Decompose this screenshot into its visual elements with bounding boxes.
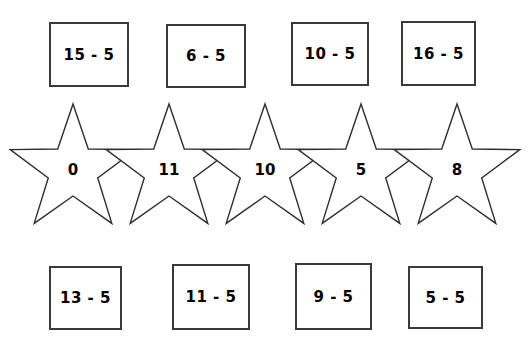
star-value: 5 xyxy=(356,161,366,179)
expression-card[interactable]: 9 - 5 xyxy=(295,263,372,330)
expression-label: 6 - 5 xyxy=(186,47,226,65)
star-value: 8 xyxy=(452,161,462,179)
star-answer-row: 0 11 10 5 8 xyxy=(0,98,527,232)
star-value: 0 xyxy=(68,161,78,179)
expression-card[interactable]: 11 - 5 xyxy=(172,264,250,330)
expression-card[interactable]: 15 - 5 xyxy=(49,22,129,87)
expression-label: 10 - 5 xyxy=(305,45,356,63)
expression-label: 15 - 5 xyxy=(64,46,115,64)
expression-label: 13 - 5 xyxy=(60,289,111,307)
expression-card[interactable]: 10 - 5 xyxy=(291,22,369,86)
expression-label: 9 - 5 xyxy=(313,288,353,306)
expression-label: 5 - 5 xyxy=(425,289,465,307)
expression-card[interactable]: 13 - 5 xyxy=(49,266,122,330)
expression-card[interactable]: 16 - 5 xyxy=(401,21,476,86)
expression-label: 16 - 5 xyxy=(413,45,464,63)
expression-label: 11 - 5 xyxy=(186,288,237,306)
worksheet-canvas: 15 - 5 6 - 5 10 - 5 16 - 5 0 11 10 5 8 1… xyxy=(0,0,527,339)
star-value: 11 xyxy=(159,161,180,179)
expression-card[interactable]: 5 - 5 xyxy=(408,266,483,329)
expression-card[interactable]: 6 - 5 xyxy=(166,24,246,88)
star-value: 10 xyxy=(255,161,276,179)
